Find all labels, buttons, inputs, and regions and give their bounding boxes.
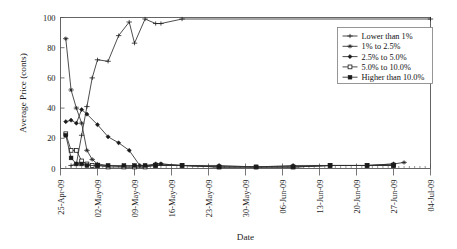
y-tick-label: 20 xyxy=(47,134,55,143)
x-tick-label: 25-Apr-09 xyxy=(57,180,66,215)
marker-square-filled xyxy=(154,164,158,168)
x-tick-label: 02-May-09 xyxy=(94,180,103,218)
line-chart: 020406080100 25-Apr-0902-May-0909-May-09… xyxy=(0,0,457,249)
marker-diamond xyxy=(64,120,68,124)
y-tick-label: 40 xyxy=(47,104,55,113)
series-line xyxy=(66,135,394,167)
marker-square-filled xyxy=(96,164,100,168)
marker-diamond xyxy=(69,118,73,122)
y-axis: 020406080100 xyxy=(43,14,65,174)
marker-square-open xyxy=(74,148,78,152)
marker-square-filled xyxy=(74,162,78,166)
chart-legend: Lower than 1%1% to 2.5%2.5% to 5.0%5.0% … xyxy=(338,28,433,84)
x-tick-label: 27-Jun-09 xyxy=(390,180,399,214)
x-tick-label: 23-May-09 xyxy=(205,180,214,218)
marker-square-filled xyxy=(392,164,396,168)
marker-square-filled xyxy=(291,165,295,169)
series-3 xyxy=(64,108,396,170)
y-tick-label: 80 xyxy=(47,44,55,53)
legend-item-label: 2.5% to 5.0% xyxy=(362,53,407,62)
marker-square-filled xyxy=(143,164,147,168)
marker-square-filled xyxy=(80,162,84,166)
series-line xyxy=(66,134,394,167)
legend-item-label: Lower than 1% xyxy=(362,32,413,41)
y-tick-label: 0 xyxy=(51,165,55,174)
marker-square-filled xyxy=(64,133,68,137)
marker-square-filled xyxy=(69,156,73,160)
x-tick-label: 04-Jul-09 xyxy=(427,180,436,212)
marker-square-filled xyxy=(348,75,352,79)
legend-item-label: 1% to 2.5% xyxy=(362,42,401,51)
marker-square-filled xyxy=(217,165,221,169)
y-tick-label: 60 xyxy=(47,74,55,83)
marker-square-filled xyxy=(106,164,110,168)
marker-square-filled xyxy=(85,164,89,168)
marker-square-filled xyxy=(180,164,184,168)
x-tick-label: 20-Jun-09 xyxy=(353,180,362,214)
series-line xyxy=(66,110,394,167)
legend-item-label: Higher than 10.0% xyxy=(362,73,425,82)
series-4 xyxy=(64,132,396,169)
marker-square-filled xyxy=(328,164,332,168)
y-axis-title: Average Price (conts) xyxy=(18,53,28,132)
marker-diamond xyxy=(74,121,78,125)
x-tick-label: 13-Jun-09 xyxy=(316,180,325,214)
x-tick-label: 16-May-09 xyxy=(168,180,177,218)
x-tick-label: 09-May-09 xyxy=(131,180,140,218)
marker-square-filled xyxy=(254,165,258,169)
x-axis: 25-Apr-0902-May-0909-May-0916-May-0923-M… xyxy=(57,164,436,218)
marker-square-open xyxy=(348,65,352,69)
y-tick-label: 100 xyxy=(43,14,56,23)
marker-square-filled xyxy=(122,164,126,168)
x-axis-title: Date xyxy=(237,232,254,242)
chart-figure: 020406080100 25-Apr-0902-May-0909-May-09… xyxy=(0,0,457,249)
x-tick-label: 30-May-09 xyxy=(242,180,251,218)
legend-item-label: 5.0% to 10.0% xyxy=(362,63,411,72)
marker-square-filled xyxy=(133,164,137,168)
series-5 xyxy=(64,133,396,169)
x-tick-label: 06-Jun-09 xyxy=(279,180,288,214)
marker-square-filled xyxy=(365,164,369,168)
